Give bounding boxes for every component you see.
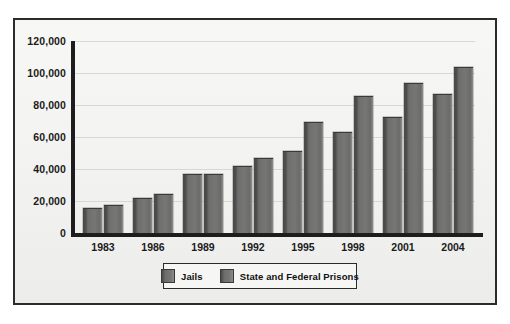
bar	[154, 194, 173, 233]
legend-item: Jails	[161, 269, 203, 283]
bar-group: 1983	[83, 41, 123, 233]
bar-group: 1995	[283, 41, 323, 233]
y-axis-tick-label: 40,000	[33, 163, 66, 175]
bar	[133, 198, 152, 233]
legend-item: State and Federal Prisons	[220, 269, 359, 283]
bar-group: 1989	[183, 41, 223, 233]
y-axis-tick-label: 120,000	[27, 35, 66, 47]
y-axis-tick-label: 0	[60, 227, 66, 239]
x-axis-line	[71, 233, 483, 237]
bar	[233, 166, 252, 233]
plot-area: 020,00040,00060,00080,000100,000120,000 …	[75, 41, 475, 233]
y-axis-tick-label: 20,000	[33, 195, 66, 207]
bar-group: 2001	[383, 41, 423, 233]
bar	[83, 208, 102, 233]
chart-figure: 020,00040,00060,00080,000100,000120,000 …	[13, 18, 497, 305]
legend-label: Jails	[181, 271, 203, 282]
bar-group: 1992	[233, 41, 273, 233]
x-axis-tick-label: 1983	[83, 241, 123, 253]
legend-swatch-icon	[220, 269, 234, 283]
y-axis-tick-label: 80,000	[33, 99, 66, 111]
bar-group: 1986	[133, 41, 173, 233]
legend-swatch-icon	[161, 269, 175, 283]
chart-legend: JailsState and Federal Prisons	[163, 263, 357, 289]
x-axis-tick-label: 1995	[283, 241, 323, 253]
bar	[283, 151, 302, 233]
bar	[204, 174, 223, 233]
x-axis-tick-label: 1989	[183, 241, 223, 253]
bar-group: 1998	[333, 41, 373, 233]
y-axis-tick-label: 60,000	[33, 131, 66, 143]
x-axis-tick-label: 2004	[433, 241, 473, 253]
bar	[454, 67, 473, 233]
bar	[104, 205, 123, 233]
y-axis-line	[71, 41, 75, 237]
legend-label: State and Federal Prisons	[240, 271, 359, 282]
x-axis-tick-label: 1986	[133, 241, 173, 253]
y-axis-tick-label: 100,000	[27, 67, 66, 79]
bar	[333, 132, 352, 233]
bar	[354, 96, 373, 233]
bar	[304, 122, 323, 233]
bar-group: 2004	[433, 41, 473, 233]
x-axis-tick-label: 2001	[383, 241, 423, 253]
x-axis-tick-label: 1998	[333, 241, 373, 253]
bar	[383, 117, 402, 233]
bar	[404, 83, 423, 233]
bar	[254, 158, 273, 233]
bar	[183, 174, 202, 233]
bar	[433, 94, 452, 233]
x-axis-tick-label: 1992	[233, 241, 273, 253]
